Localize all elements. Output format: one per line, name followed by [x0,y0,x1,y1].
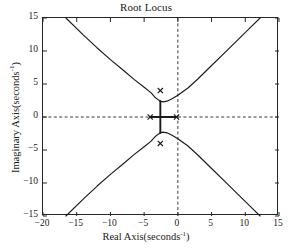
locus-branch-upper-left-asymptotic-branch [66,18,160,101]
x-axis-label-text: Real Axis(seconds [102,231,180,242]
pole-marker-1 [158,141,163,146]
y-axis-label-text: Imaginary Axis(seconds [10,71,21,173]
pole-marker-0 [158,88,163,93]
x-tick-label: 0 [162,218,192,228]
plot-area [42,17,278,215]
locus-canvas [42,17,280,217]
x-tick-label: 15 [263,218,292,228]
x-tick-label: 10 [229,218,259,228]
y-axis-label-tail: ) [10,62,21,66]
y-axis-label: Imaginary Axis(seconds-1) [10,18,21,218]
x-tick-label: −10 [94,218,124,228]
locus-branch-lower-right-asymptotic-branch [160,132,260,216]
root-locus-figure: Root Locus −20−15−10−5051015 −15−10−5051… [0,0,292,251]
y-axis-label-exponent: -1 [8,65,16,71]
x-tick-label: −5 [128,218,158,228]
x-axis-label-tail: ) [186,231,190,242]
x-tick-label: −15 [61,218,91,228]
locus-branch-lower-left-asymptotic-branch [66,133,160,216]
x-tick-label: 5 [196,218,226,228]
locus-branch-upper-right-asymptotic-branch [160,18,260,102]
chart-title: Root Locus [0,1,292,13]
x-axis-label: Real Axis(seconds-1) [0,231,292,242]
x-tick-label: −20 [27,218,57,228]
